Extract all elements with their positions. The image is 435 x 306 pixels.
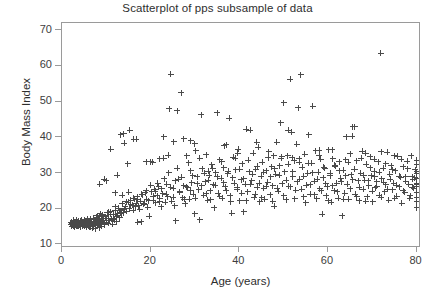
scatter-point — [195, 186, 202, 193]
scatter-point — [164, 193, 171, 200]
scatter-point — [90, 216, 97, 223]
scatter-point — [69, 222, 76, 229]
scatter-point — [270, 152, 277, 159]
scatter-point — [296, 159, 303, 166]
scatter-point — [116, 207, 123, 214]
scatter-point — [103, 219, 110, 226]
scatter-point — [112, 189, 119, 196]
scatter-point — [279, 180, 286, 187]
scatter-point — [275, 188, 282, 195]
scatter-point — [322, 180, 329, 187]
scatter-point — [400, 163, 407, 170]
scatter-point — [152, 188, 159, 195]
scatter-point — [86, 223, 93, 230]
scatter-point — [258, 194, 265, 201]
scatter-point — [96, 213, 103, 220]
scatter-point — [394, 153, 401, 160]
scatter-point — [187, 187, 194, 194]
scatter-point — [285, 183, 292, 190]
scatter-point — [101, 221, 108, 228]
scatter-point — [268, 163, 275, 170]
x-tick-mark — [150, 247, 151, 252]
y-tick-label: 70 — [26, 24, 52, 35]
scatter-point — [212, 169, 219, 176]
scatter-point — [84, 222, 91, 229]
scatter-point — [291, 157, 298, 164]
scatter-point — [308, 160, 315, 167]
scatter-point — [373, 183, 380, 190]
scatter-point — [202, 178, 209, 185]
scatter-point — [134, 193, 141, 200]
scatter-point — [131, 195, 138, 202]
scatter-point — [97, 210, 104, 217]
scatter-point — [367, 164, 374, 171]
y-tick-label: 40 — [26, 131, 52, 142]
scatter-point — [98, 218, 105, 225]
scatter-point — [410, 185, 417, 192]
scatter-point — [371, 168, 378, 175]
scatter-point — [120, 130, 127, 137]
scatter-point — [121, 140, 128, 147]
scatter-point — [69, 220, 76, 227]
scatter-point — [307, 191, 314, 198]
scatter-point — [70, 217, 77, 224]
scatter-point — [210, 181, 217, 188]
scatter-point — [276, 172, 283, 179]
scatter-point — [191, 210, 198, 217]
scatter-point — [261, 196, 268, 203]
scatter-point — [79, 218, 86, 225]
scatter-point — [246, 168, 253, 175]
y-tick-label: 50 — [26, 95, 52, 106]
scatter-point — [396, 173, 403, 180]
scatter-point — [172, 217, 179, 224]
scatter-point — [83, 221, 90, 228]
scatter-point — [227, 198, 234, 205]
scatter-point — [236, 166, 243, 173]
scatter-point — [338, 178, 345, 185]
scatter-point — [380, 179, 387, 186]
scatter-point — [93, 218, 100, 225]
scatter-point — [156, 155, 163, 162]
chart-title: Scatterplot of pps subsample of data — [0, 2, 435, 14]
scatter-point — [412, 166, 419, 173]
scatter-point — [300, 193, 307, 200]
scatter-point — [73, 216, 80, 223]
scatter-point — [92, 220, 99, 227]
scatter-point — [329, 182, 336, 189]
scatter-point — [359, 148, 366, 155]
scatter-point — [137, 198, 144, 205]
scatter-point — [357, 170, 364, 177]
x-tick-label: 20 — [130, 254, 170, 266]
scatter-point — [413, 194, 420, 201]
scatter-point — [150, 193, 157, 200]
scatter-point — [74, 218, 81, 225]
scatter-point — [136, 206, 143, 213]
scatter-point — [325, 146, 332, 153]
scatter-point — [361, 177, 368, 184]
scatter-point — [388, 162, 395, 169]
scatter-point — [182, 200, 189, 207]
scatter-point — [252, 166, 259, 173]
scatter-point — [263, 167, 270, 174]
scatter-point — [105, 220, 112, 227]
scatter-point — [295, 104, 302, 111]
scatter-point — [89, 221, 96, 228]
scatter-point — [150, 197, 157, 204]
scatter-point — [130, 195, 137, 202]
scatter-point — [327, 170, 334, 177]
scatter-point — [168, 198, 175, 205]
scatter-point — [116, 214, 123, 221]
scatter-point — [311, 191, 318, 198]
plot-area — [61, 22, 420, 247]
scatter-point — [303, 182, 310, 189]
scatter-point — [314, 176, 321, 183]
scatter-point — [70, 222, 77, 229]
scatter-point — [343, 133, 350, 140]
scatter-point — [402, 178, 409, 185]
scatter-point — [258, 173, 265, 180]
scatter-point — [332, 163, 339, 170]
scatter-point — [375, 158, 382, 165]
scatter-point — [166, 105, 173, 112]
scatter-point — [68, 219, 75, 226]
scatter-point — [138, 191, 145, 198]
